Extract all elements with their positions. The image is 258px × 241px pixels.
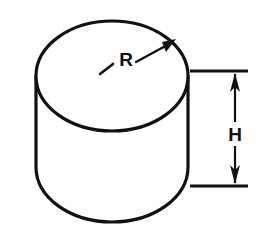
cylinder-top-face-ellipse [36, 21, 188, 131]
cylinder-figure: R H [0, 0, 258, 241]
height-label: H [228, 124, 242, 145]
radius-label: R [119, 49, 133, 70]
cylinder-drawing-canvas: R H [0, 0, 258, 241]
